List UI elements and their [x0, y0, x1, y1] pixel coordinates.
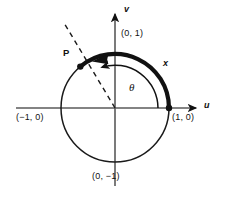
v-axis-label: v	[124, 5, 129, 14]
point-p-marker	[77, 63, 83, 69]
figure-canvas	[0, 0, 232, 199]
arc-length-label-x: x	[163, 59, 168, 68]
coord-label-bottom: (0, −1)	[92, 172, 120, 181]
coord-label-right: (1, 0)	[172, 113, 194, 122]
coord-label-left: (−1, 0)	[16, 113, 44, 122]
unit-circle-figure: v u (0, 1) (1, 0) (−1, 0) (0, −1) P x θ	[0, 0, 232, 199]
angle-theta-label: θ	[129, 82, 135, 93]
point-p-label: P	[63, 48, 70, 58]
terminal-ray-dashed	[64, 22, 116, 108]
coord-label-top: (0, 1)	[121, 29, 143, 38]
arc-x-highlight	[80, 54, 169, 108]
point-right-marker	[166, 105, 172, 111]
u-axis-label: u	[204, 101, 210, 110]
